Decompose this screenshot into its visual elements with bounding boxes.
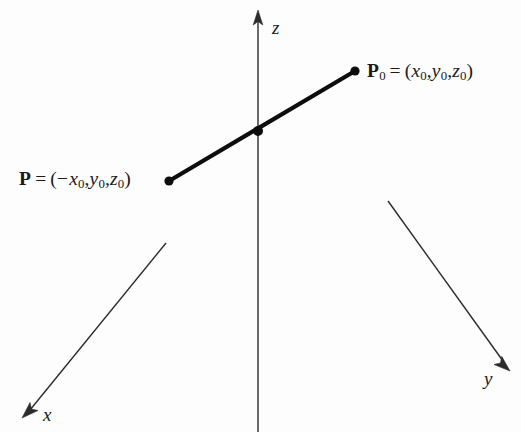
y-axis-line: [388, 201, 503, 361]
x-axis-label: x: [43, 405, 51, 424]
label-p0-coord-y: y: [432, 60, 441, 81]
point-dot-midpoint: [253, 126, 263, 136]
z-axis-label: z: [272, 18, 279, 37]
y-axis-arrowhead: [494, 356, 510, 371]
x-axis-line: [30, 243, 166, 410]
label-point-p: P=(−x0,y0,z0): [19, 169, 131, 191]
y-axis-label: y: [484, 369, 492, 388]
label-p-close-paren: ): [124, 168, 131, 189]
point-dot-p: [164, 176, 173, 185]
y-axis: [388, 201, 510, 371]
z-axis: [253, 10, 263, 432]
label-p0-close-paren: ): [466, 60, 473, 81]
coordinate-axes-figure: P0=(x0,y0,z0) P=(−x0,y0,z0) z y x: [0, 0, 521, 432]
label-p-coord-z: z: [110, 168, 118, 189]
label-p-coord-x: x: [69, 168, 78, 189]
label-p-minus-sign: −: [57, 168, 69, 189]
label-p-equals: =: [31, 168, 50, 189]
x-axis: [22, 243, 166, 418]
segment-p-to-p0: [164, 66, 359, 185]
label-p0-symbol-subscript: 0: [379, 69, 385, 83]
segment-line: [169, 71, 355, 181]
label-p0-coord-z: z: [452, 60, 460, 81]
label-point-p0: P0=(x0,y0,z0): [367, 61, 473, 83]
label-p0-symbol: P: [367, 60, 379, 81]
point-dot-p0: [350, 66, 359, 75]
label-p0-equals: =: [386, 60, 405, 81]
label-p-symbol: P: [19, 168, 31, 189]
label-p0-coord-x: x: [411, 60, 420, 81]
x-axis-arrowhead: [22, 403, 38, 419]
